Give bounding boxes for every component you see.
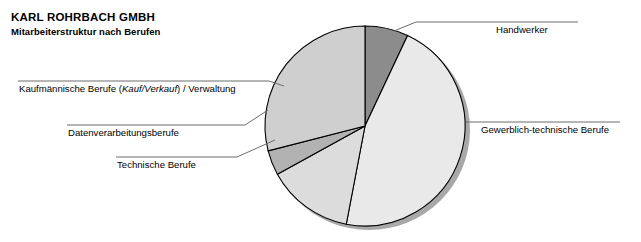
leader-line-technische — [116, 140, 275, 157]
label-kaufmaennische-berufe[interactable]: Kaufmännische Berufe (Kauf/Verkauf) / Ve… — [19, 83, 236, 95]
label-handwerker[interactable]: Handwerker — [496, 24, 548, 36]
label-gewerblich-technische-berufe[interactable]: Gewerblich-technische Berufe — [481, 124, 609, 136]
leader-line-handwerker — [394, 22, 578, 31]
kaufmaennisch-text-post: ) / Verwaltung — [177, 83, 236, 94]
chart-canvas: KARL ROHRBACH GMBH Mitarbeiterstruktur n… — [0, 0, 641, 242]
label-technische-berufe[interactable]: Technische Berufe — [117, 159, 196, 171]
pie-chart — [0, 0, 641, 242]
pie-slices — [265, 26, 465, 226]
label-datenverarbeitungsberufe[interactable]: Datenverarbeitungsberufe — [68, 127, 179, 139]
leader-line-datenverarbeitung — [67, 110, 268, 125]
kaufmaennisch-text-pre: Kaufmännische Berufe ( — [19, 83, 122, 94]
kaufmaennisch-text-italic: Kauf/Verkauf — [122, 83, 177, 94]
